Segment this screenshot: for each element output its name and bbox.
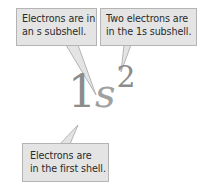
callout-shell-line-1: Electrons are — [30, 150, 103, 163]
callout-subshell-line-1: Electrons are in — [22, 13, 91, 26]
callout-shell-line-2: in the first shell. — [30, 163, 103, 176]
shell-number: 1 — [68, 70, 96, 114]
electron-configuration-notation: 1s2 — [68, 70, 136, 115]
callout-shell: Electrons are in the first shell. — [22, 143, 109, 182]
callout-count-line-2: in the 1s subshell. — [106, 26, 191, 39]
electron-count-superscript: 2 — [117, 62, 136, 92]
shell-pointer — [60, 125, 78, 144]
callout-subshell-line-2: an s subshell. — [22, 26, 91, 39]
callout-subshell: Electrons are in an s subshell. — [16, 8, 97, 46]
callout-electron-count: Two electrons are in the 1s subshell. — [100, 8, 197, 46]
subshell-letter: s — [95, 71, 116, 115]
callout-count-line-1: Two electrons are — [106, 13, 191, 26]
